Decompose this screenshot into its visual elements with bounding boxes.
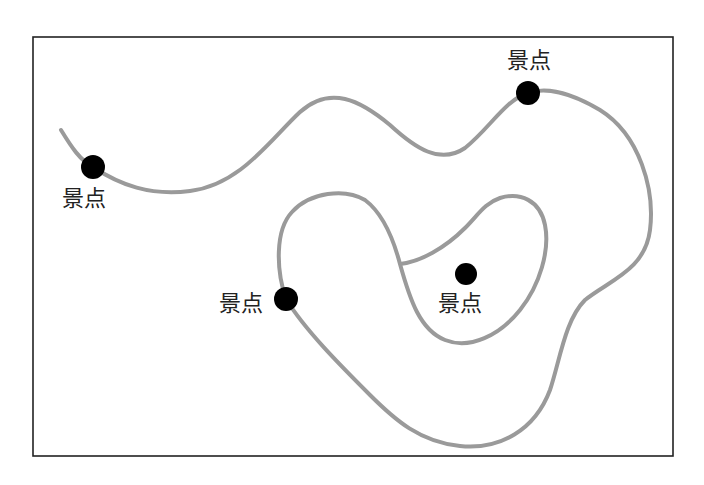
road-main [61,91,651,447]
spot-label-2: 景点 [507,50,551,72]
spot-label-4: 景点 [438,293,482,315]
spot-dot-4 [455,263,477,285]
spot-dot-1 [81,155,105,179]
spot-dot-3 [274,287,298,311]
spot-dot-2 [516,81,540,105]
road-inner-loop [279,193,546,343]
spot-label-3: 景点 [219,293,263,315]
spot-label-1: 景点 [62,188,106,210]
route-diagram [0,0,704,485]
